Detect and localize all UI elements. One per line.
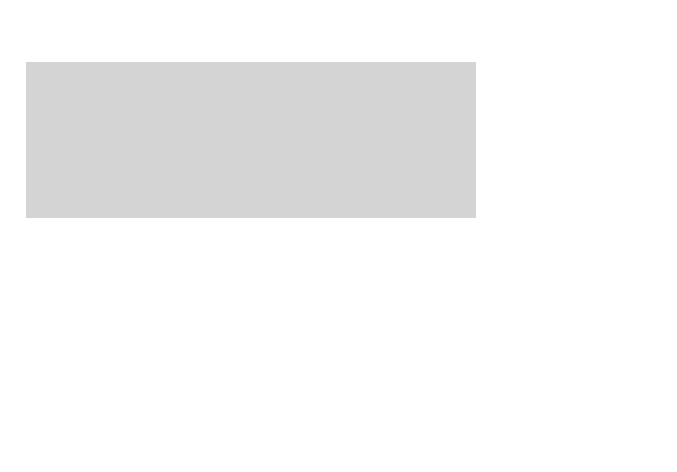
ocean-rect-full [26, 62, 276, 218]
us-map [0, 0, 677, 472]
